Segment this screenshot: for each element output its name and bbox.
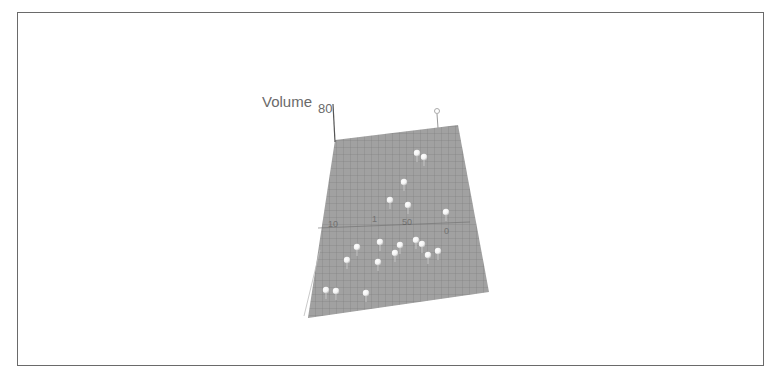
data-point[interactable]: [377, 239, 383, 245]
data-point[interactable]: [405, 202, 411, 208]
axis-tip-line: [437, 114, 438, 128]
data-point[interactable]: [323, 287, 329, 293]
y-axis-tick-50: 50: [402, 217, 412, 227]
data-point[interactable]: [375, 259, 381, 265]
data-point[interactable]: [344, 257, 350, 263]
data-point[interactable]: [333, 288, 339, 294]
data-point[interactable]: [413, 237, 419, 243]
3d-scatter-plot[interactable]: Volume 80 10 1 50 0: [0, 0, 776, 382]
data-point[interactable]: [387, 197, 393, 203]
data-point[interactable]: [354, 244, 360, 250]
y-axis-tick-1: 1: [372, 214, 377, 224]
data-point[interactable]: [414, 150, 420, 156]
data-point[interactable]: [435, 248, 441, 254]
z-axis-line: [333, 104, 335, 142]
data-point[interactable]: [392, 250, 398, 256]
x-axis-tick-10: 10: [328, 219, 338, 229]
data-point[interactable]: [363, 290, 369, 296]
z-axis-tick-80: 80: [318, 101, 332, 116]
data-point[interactable]: [425, 252, 431, 258]
axis-tip-marker: [435, 109, 440, 114]
data-point[interactable]: [397, 242, 403, 248]
data-point[interactable]: [421, 154, 427, 160]
data-point[interactable]: [443, 209, 449, 215]
data-point[interactable]: [419, 241, 425, 247]
z-axis-label: Volume: [262, 93, 312, 110]
caption-cutoff: [0, 374, 776, 382]
x-axis-tick-0: 0: [444, 226, 449, 236]
data-point[interactable]: [401, 179, 407, 185]
